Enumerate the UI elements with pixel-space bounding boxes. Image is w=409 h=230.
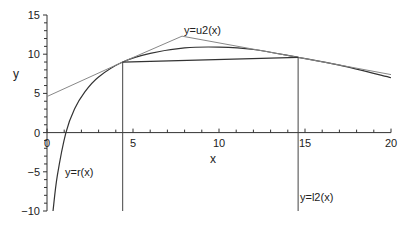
y-tick-label: 0 [34, 127, 40, 139]
series-secant [123, 57, 298, 62]
y-axis-label: y [13, 67, 19, 81]
x-axis-label: x [210, 152, 216, 166]
x-tick-label: 15 [299, 137, 311, 149]
x-tick-label: 20 [385, 137, 397, 149]
y-tick-label: 15 [28, 9, 40, 21]
plot-area [47, 36, 391, 211]
x-tick-label: 10 [213, 137, 225, 149]
y-tick-label: −10 [21, 205, 40, 217]
series-rx [53, 47, 391, 211]
y-tick-label: 5 [34, 87, 40, 99]
axes: −10−505101505101520 [21, 9, 397, 217]
y-tick-label: −5 [27, 166, 40, 178]
annotation-r: y=r(x) [65, 166, 93, 178]
y-tick-label: 10 [28, 48, 40, 60]
x-tick-label: 5 [130, 137, 136, 149]
x-tick-label: 0 [44, 137, 50, 149]
series-u2x [47, 36, 391, 96]
annotation-u2: y=u2(x) [184, 24, 221, 36]
annotation-l2: y=l2(x) [300, 191, 333, 203]
chart: −10−505101505101520 x y y=u2(x) y=r(x) y… [0, 0, 409, 230]
